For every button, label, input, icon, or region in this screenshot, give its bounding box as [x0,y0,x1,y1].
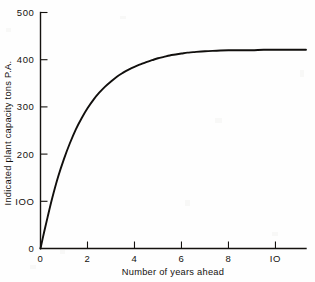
y-axis-tick-label: 400 [17,54,35,65]
x-axis-tick-label: 4 [132,253,138,264]
y-axis-tick-label: 300 [17,101,35,112]
y-axis-tick-labels: 0IOO200300400500 [15,7,34,254]
capacity-curve [41,50,307,249]
x-axis-tick-label: 0 [38,253,44,264]
chart-plot-area: 0IOO200300400500 02468IO Number of years… [0,0,315,282]
x-axis-tick-label: 6 [179,253,185,264]
y-axis-tick-label: IOO [15,196,34,207]
y-axis-ticks [41,13,48,202]
x-axis-ticks [87,242,275,249]
x-axis-tick-label: IO [270,253,281,264]
x-axis-tick-label: 2 [85,253,91,264]
y-axis-title: Indicated plant capacity tons P.A. [3,61,13,206]
y-axis-tick-label: 500 [17,7,35,18]
x-axis-title: Number of years ahead [122,267,224,277]
y-axis-tick-label: 200 [17,149,35,160]
x-axis-tick-label: 8 [226,253,232,264]
y-axis-tick-label: 0 [29,243,35,254]
x-axis-tick-labels: 02468IO [38,253,282,264]
chart-figure: 0IOO200300400500 02468IO Number of years… [0,0,315,282]
